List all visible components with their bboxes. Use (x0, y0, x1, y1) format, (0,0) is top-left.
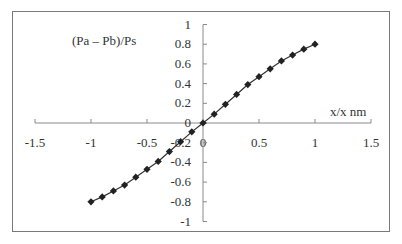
data-point-marker (311, 41, 318, 48)
y-tick-label: 0.8 (175, 36, 191, 51)
data-point-marker (143, 166, 150, 173)
y-tick-label: -0.8 (170, 194, 191, 209)
x-tick-label: 1.5 (363, 135, 379, 150)
data-point-marker (278, 57, 285, 64)
data-point-marker (99, 193, 106, 200)
data-point-marker (121, 181, 128, 188)
data-point-marker (289, 51, 296, 58)
x-tick-label: -0.5 (137, 135, 158, 150)
data-point-marker (87, 198, 94, 205)
x-tick-label: 0.5 (251, 135, 267, 150)
y-tick-label: 1 (185, 17, 192, 32)
data-point-marker (267, 65, 274, 72)
x-tick-label: -1 (86, 135, 97, 150)
x-tick-label: -1.5 (25, 135, 46, 150)
data-point-marker (300, 46, 307, 53)
data-point-marker (132, 174, 139, 181)
line-chart: -1.5-1-0.500.511.510.80.60.40.20-0.2-0.4… (0, 0, 402, 244)
y-tick-label: 0 (185, 115, 192, 130)
x-axis-label: x/x nm (330, 104, 366, 119)
data-point-marker (110, 187, 117, 194)
data-point-marker (255, 73, 262, 80)
y-tick-label: -0.4 (170, 154, 191, 169)
y-axis-label: (Pa – Pb)/Ps (72, 33, 136, 48)
y-tick-label: 0.4 (175, 76, 192, 91)
y-tick-label: -0.6 (170, 174, 191, 189)
y-tick-label: -1 (180, 214, 191, 229)
x-tick-label: 1 (312, 135, 319, 150)
y-tick-label: 0.2 (175, 95, 191, 110)
y-tick-label: 0.6 (175, 56, 192, 71)
